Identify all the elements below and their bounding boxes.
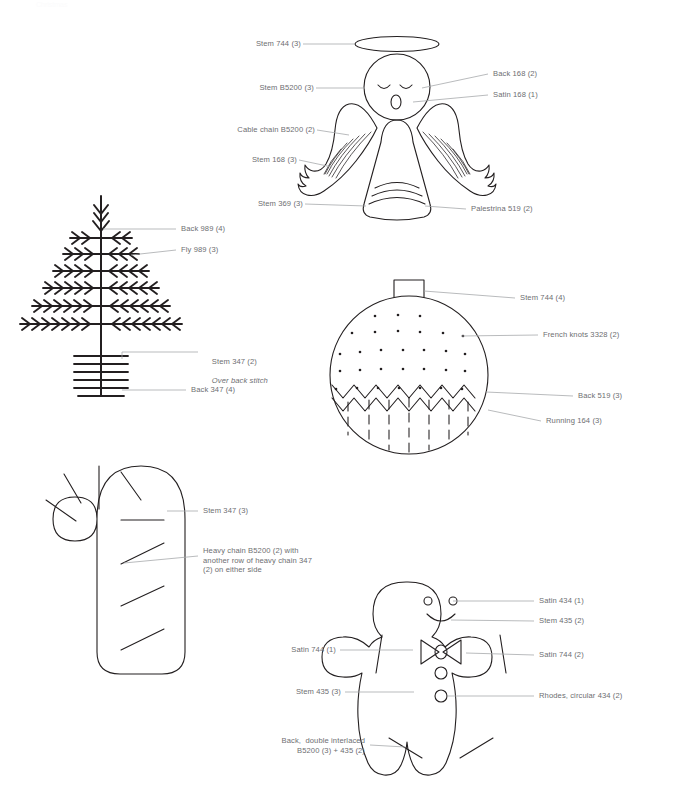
label-cane-stripes: Heavy chain B5200 (2) with another row o… <box>203 546 312 575</box>
gingerbread-smile <box>427 614 455 621</box>
angel-head-shape <box>364 54 430 120</box>
candy-cane-stripes <box>46 466 164 650</box>
label-ginger-smile: Stem 435 (2) <box>539 616 584 626</box>
label-bauble-dots: French knots 3328 (2) <box>543 330 619 340</box>
label-ginger-bowtie-left: Satin 744 (1) <box>218 645 336 655</box>
gingerbread-bowtie <box>421 640 461 664</box>
angel-mouth-shape <box>391 95 401 109</box>
angel-left-wing <box>298 104 377 196</box>
gingerbread-button-upper <box>435 667 447 679</box>
angel-hem-arc-1 <box>375 183 419 189</box>
label-tree-trunk: Back 989 (4) <box>181 224 225 234</box>
label-cane-outline: Stem 347 (3) <box>203 506 248 516</box>
leader-lines <box>103 44 573 747</box>
bauble-motif <box>330 280 488 454</box>
gingerbread-right-eye <box>449 597 457 605</box>
angel-halo-shape <box>355 37 439 52</box>
angel-hem-arc-2 <box>372 190 422 196</box>
label-angel-mouth: Satin 168 (1) <box>493 90 538 100</box>
gingerbread-bowtie-knot <box>435 645 447 659</box>
gingerbread-right-ankle <box>460 738 493 758</box>
gingerbread-left-cuff <box>376 635 382 673</box>
label-bauble-cap: Stem 744 (4) <box>520 293 565 303</box>
label-ginger-bowtie-right: Satin 744 (2) <box>539 650 584 660</box>
label-angel-wing-fill: Cable chain B5200 (2) <box>180 125 315 135</box>
gingerbread-right-cuff <box>500 635 506 673</box>
bauble-zigzag-lower <box>332 398 475 411</box>
label-ginger-buttons: Rhodes, circular 434 (2) <box>539 691 622 701</box>
bauble-zigzag-upper <box>332 385 475 398</box>
tree-motif <box>20 196 182 396</box>
angel-gown-shape <box>363 120 431 220</box>
gingerbread-left-eye <box>424 597 432 605</box>
label-ginger-eyes: Satin 434 (1) <box>539 596 584 606</box>
label-tree-pot-stem-text: Stem 347 (2) <box>212 357 257 366</box>
label-angel-hem: Palestrina 519 (2) <box>471 204 533 214</box>
angel-left-eye <box>378 85 390 89</box>
angel-right-wing <box>417 104 496 196</box>
gingerbread-button-lower <box>435 690 447 702</box>
bauble-french-knots <box>335 314 467 391</box>
gingerbread-left-ankle <box>389 738 422 758</box>
bauble-cap-shape <box>394 280 424 297</box>
label-ginger-body: Stem 435 (3) <box>223 687 341 697</box>
bauble-running-stitches <box>348 398 468 453</box>
label-tree-branches: Fly 989 (3) <box>181 245 218 255</box>
label-bauble-stripes: Running 164 (3) <box>546 416 602 426</box>
faint-header-text: Christmas <box>36 1 68 8</box>
label-angel-halo: Stem 744 (3) <box>181 39 301 49</box>
angel-motif <box>298 37 496 221</box>
label-tree-pot-stem-note: Over back stitch <box>212 376 268 385</box>
pattern-sheet: Christmas <box>0 0 675 793</box>
label-angel-gown: Stem 369 (3) <box>183 199 303 209</box>
angel-right-eye <box>400 85 412 89</box>
angel-hem-arc-3 <box>369 198 425 205</box>
label-tree-pot-back: Back 347 (4) <box>191 385 235 395</box>
label-bauble-zigzag: Back 519 (3) <box>578 391 622 401</box>
candy-cane-shape <box>53 466 185 674</box>
candy-cane-motif <box>46 466 185 674</box>
tree-pot <box>74 356 128 396</box>
label-angel-wing-outline: Stem 168 (3) <box>177 155 297 165</box>
label-angel-head: Stem B5200 (3) <box>186 83 314 93</box>
pattern-artwork <box>0 0 675 793</box>
label-angel-eyes: Back 168 (2) <box>493 69 537 79</box>
bauble-body-shape <box>330 296 488 454</box>
label-ginger-cuffs: Back, double interlaced B5200 (3) + 435 … <box>229 736 365 755</box>
